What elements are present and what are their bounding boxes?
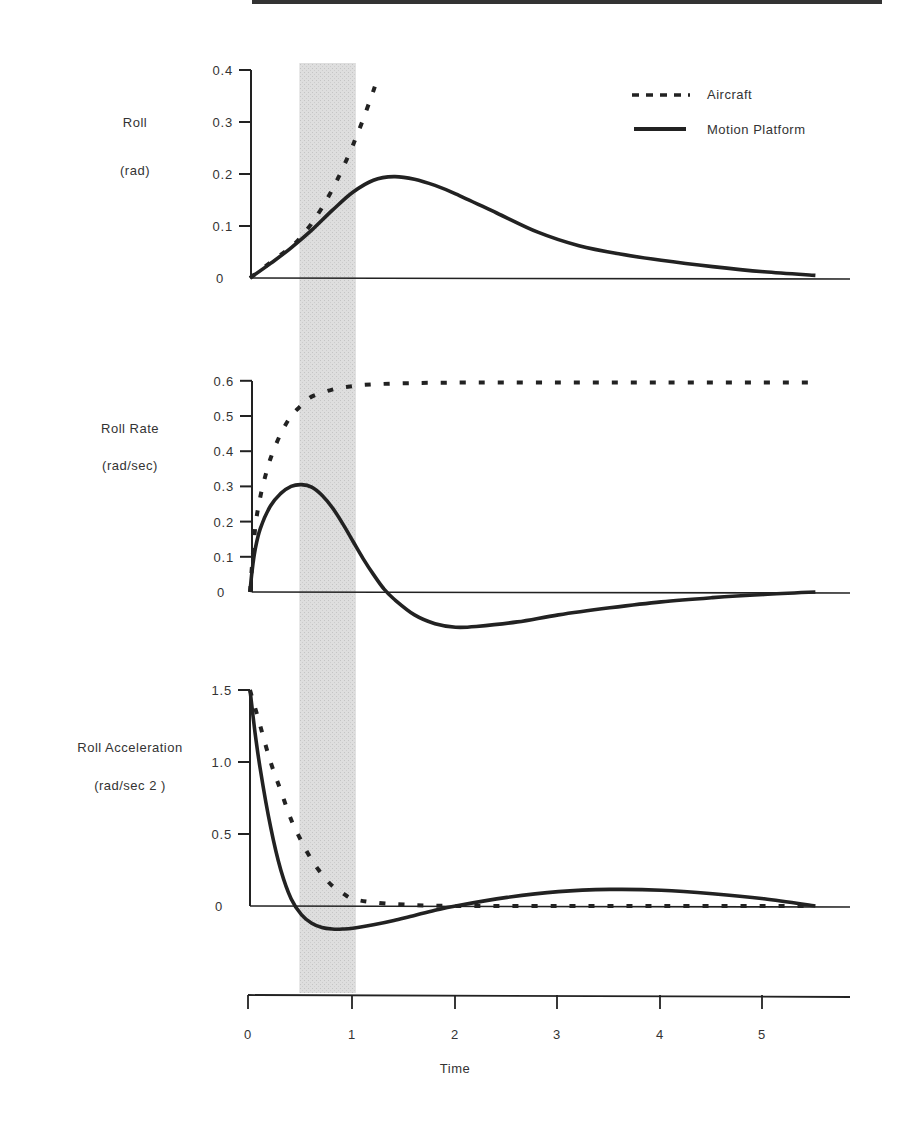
y-tick-label: 0.1 [213, 219, 233, 234]
zero-baseline [252, 592, 850, 593]
x-tick-label: 5 [758, 1027, 766, 1042]
legend-aircraft-label: Aircraft [707, 87, 752, 102]
x-tick-label: 4 [656, 1027, 664, 1042]
y-axis-unit: (rad/sec 2 ) [94, 778, 166, 793]
roll-response-figure: Roll(rad)00.10.20.30.4Roll Rate(rad/sec)… [0, 0, 899, 1143]
y-tick-label: 0.3 [214, 479, 234, 494]
y-tick-label: 0.2 [214, 515, 234, 530]
y-tick-label: 0.1 [214, 550, 234, 565]
y-tick-label: 0.6 [214, 374, 234, 389]
y-tick-label: 0.3 [213, 115, 233, 130]
time-axis-line [248, 995, 850, 997]
y-axis-unit: (rad) [120, 163, 150, 178]
y-tick-label: 0 [216, 271, 224, 286]
y-tick-label: 0 [217, 585, 225, 600]
y-axis-unit: (rad/sec) [102, 458, 158, 473]
x-axis-label: Time [440, 1061, 470, 1076]
y-axis-label: Roll Rate [101, 421, 159, 436]
y-tick-label: 0.5 [214, 409, 234, 424]
y-axis-label: Roll [123, 115, 147, 130]
legend: Aircraft Motion Platform [632, 87, 806, 137]
time-axis: 012345 [244, 995, 850, 1042]
y-tick-label: 1.0 [212, 755, 232, 770]
panel-roll-rate: Roll Rate(rad/sec)00.10.20.30.40.50.6 [101, 374, 850, 628]
x-tick-label: 3 [553, 1027, 561, 1042]
zero-baseline [251, 278, 850, 279]
x-tick-label: 1 [348, 1027, 356, 1042]
y-tick-label: 0 [215, 899, 223, 914]
y-tick-label: 0.2 [213, 167, 233, 182]
y-tick-label: 0.5 [212, 827, 232, 842]
y-tick-label: 0.4 [213, 63, 233, 78]
x-tick-label: 2 [451, 1027, 459, 1042]
x-tick-label: 0 [244, 1027, 252, 1042]
y-axis-label: Roll Acceleration [77, 740, 182, 755]
y-tick-label: 0.4 [214, 444, 234, 459]
y-tick-label: 1.5 [212, 683, 232, 698]
legend-motion-platform-label: Motion Platform [707, 122, 806, 137]
panel-roll-acceleration: Roll Acceleration(rad/sec 2 )00.51.01.5 [77, 683, 850, 929]
